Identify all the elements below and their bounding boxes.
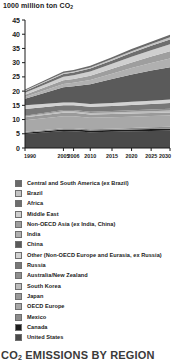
chart-axis-title-subscript: 2: [70, 4, 73, 10]
y-axis-tick-label: 45: [12, 17, 20, 24]
legend-item-label: Brazil: [27, 190, 43, 197]
x-axis-tick-label: 2006: [68, 153, 80, 159]
legend-item[interactable]: Russia: [0, 260, 174, 270]
legend-swatch-icon: [15, 324, 22, 331]
legend-item-label: Africa: [27, 200, 43, 207]
legend-item-label: Central and South America (ex Brazil): [27, 180, 129, 187]
chart-plot-area: 051015202530354045 199020052006201020152…: [0, 16, 174, 164]
legend-item-label: Mexico: [27, 314, 46, 321]
legend-item[interactable]: Non-OECD Asia (ex India, China): [0, 219, 174, 229]
area-series: [25, 131, 170, 148]
legend-swatch-icon: [15, 211, 22, 218]
x-axis-tick-label: 2015: [106, 153, 118, 159]
y-axis-tick-label: 20: [12, 88, 20, 95]
area-series-group: [25, 35, 170, 148]
stacked-area-chart: 051015202530354045 199020052006201020152…: [0, 16, 174, 164]
legend-swatch-icon: [15, 314, 22, 321]
legend-item-label: Canada: [27, 324, 48, 331]
legend-item[interactable]: Middle East: [0, 209, 174, 219]
legend-item[interactable]: India: [0, 229, 174, 239]
legend-swatch-icon: [15, 262, 22, 269]
y-axis-tick-label: 35: [12, 45, 20, 52]
legend-swatch-icon: [15, 252, 22, 259]
chart-legend: Central and South America (ex Brazil)Bra…: [0, 178, 174, 343]
legend-swatch-icon: [15, 221, 22, 228]
legend-swatch-icon: [15, 293, 22, 300]
legend-item[interactable]: United States: [0, 332, 174, 342]
y-axis-tick-label: 10: [12, 116, 20, 123]
y-axis-tick-label: 5: [16, 130, 20, 137]
legend-item[interactable]: China: [0, 240, 174, 250]
legend-swatch-icon: [15, 231, 22, 238]
figure-caption-subscript: 2: [18, 354, 22, 361]
legend-swatch-icon: [15, 334, 22, 341]
y-axis-tick-label: 40: [12, 31, 20, 38]
legend-item[interactable]: Other (Non-OECD Europe and Eurasia, ex R…: [0, 250, 174, 260]
legend-swatch-icon: [15, 303, 22, 310]
x-axis: 19902005200620102015202020252030: [24, 148, 171, 159]
legend-item-label: Other (Non-OECD Europe and Eurasia, ex R…: [27, 252, 162, 259]
legend-item-label: Australia/New Zealand: [27, 272, 88, 279]
legend-item[interactable]: Canada: [0, 322, 174, 332]
legend-swatch-icon: [15, 200, 22, 207]
legend-item-label: OECD Europe: [27, 303, 65, 310]
figure-caption-rest: EMISSIONS BY REGION: [22, 349, 155, 361]
x-axis-tick-label: 2020: [126, 153, 138, 159]
legend-item[interactable]: Japan: [0, 291, 174, 301]
legend-item-label: United States: [27, 334, 63, 341]
legend-swatch-icon: [15, 283, 22, 290]
x-axis-tick-label: 2010: [84, 153, 96, 159]
legend-swatch-icon: [15, 190, 22, 197]
figure-caption-text: CO: [1, 349, 18, 361]
legend-swatch-icon: [15, 241, 22, 248]
legend-item[interactable]: OECD Europe: [0, 302, 174, 312]
legend-item-label: Non-OECD Asia (ex India, China): [27, 221, 115, 228]
legend-item[interactable]: Brazil: [0, 188, 174, 198]
legend-swatch-icon: [15, 272, 22, 279]
legend-item[interactable]: South Korea: [0, 281, 174, 291]
legend-item[interactable]: Central and South America (ex Brazil): [0, 178, 174, 188]
legend-item-label: Middle East: [27, 211, 59, 218]
legend-swatch-icon: [15, 180, 22, 187]
legend-item[interactable]: Africa: [0, 199, 174, 209]
x-axis-tick-label: 2025: [145, 153, 157, 159]
legend-item-label: South Korea: [27, 283, 61, 290]
y-axis-tick-label: 30: [12, 59, 20, 66]
y-axis-tick-label: 25: [12, 73, 20, 80]
figure-caption: CO2 EMISSIONS BY REGION: [1, 349, 174, 361]
chart-axis-title-text: 1000 million ton CO: [3, 2, 70, 9]
x-axis-tick-label: 1990: [24, 153, 36, 159]
legend-item-label: Japan: [27, 293, 43, 300]
legend-item-label: Russia: [27, 262, 46, 269]
chart-axis-title: 1000 million ton CO2: [3, 2, 73, 9]
legend-item-label: India: [27, 231, 40, 238]
y-axis-tick-label: 15: [12, 102, 20, 109]
x-axis-tick-label: 2030: [159, 153, 171, 159]
legend-item[interactable]: Australia/New Zealand: [0, 271, 174, 281]
legend-item[interactable]: Mexico: [0, 312, 174, 322]
legend-item-label: China: [27, 241, 43, 248]
y-axis: 051015202530354045: [12, 17, 25, 152]
y-axis-tick-label: 0: [16, 145, 20, 152]
